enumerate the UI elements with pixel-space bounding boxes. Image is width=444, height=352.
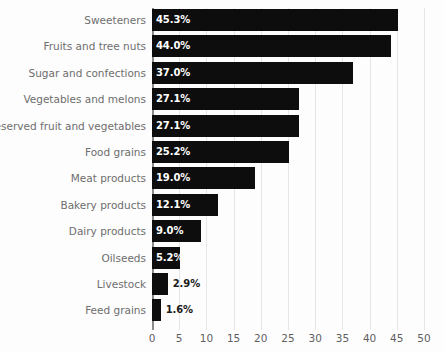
plot-area: 45.3%44.0%37.0%27.1%27.1%25.2%19.0%12.1%… bbox=[152, 8, 424, 330]
bar-row[interactable]: 44.0% bbox=[152, 35, 424, 57]
x-axis: 05101520253035404550 bbox=[152, 332, 424, 348]
category-label: Sweeteners bbox=[84, 9, 146, 31]
bar-value-label: 5.2% bbox=[156, 247, 183, 269]
bar-value-label: 25.2% bbox=[156, 141, 190, 163]
bar-chart: SweetenersFruits and tree nutsSugar and … bbox=[0, 0, 444, 352]
bar-value-label: 1.6% bbox=[166, 299, 193, 321]
bar-value-label: 45.3% bbox=[156, 9, 190, 31]
x-tick-label: 15 bbox=[227, 332, 240, 344]
x-tick-label: 5 bbox=[176, 332, 183, 344]
category-label: Dairy products bbox=[69, 220, 146, 242]
x-tick-label: 25 bbox=[281, 332, 294, 344]
x-tick-label: 45 bbox=[390, 332, 403, 344]
bar-row[interactable]: 37.0% bbox=[152, 62, 424, 84]
category-label: Meat products bbox=[71, 167, 146, 189]
category-label: Vegetables and melons bbox=[23, 88, 146, 110]
bar-row[interactable]: 2.9% bbox=[152, 273, 424, 295]
bar-row[interactable]: 12.1% bbox=[152, 194, 424, 216]
x-tick-label: 35 bbox=[336, 332, 349, 344]
bar-series: 45.3%44.0%37.0%27.1%27.1%25.2%19.0%12.1%… bbox=[152, 8, 424, 330]
category-label: Livestock bbox=[97, 273, 146, 295]
category-label: Feed grains bbox=[85, 299, 146, 321]
bar-value-label: 2.9% bbox=[173, 273, 200, 295]
bar[interactable] bbox=[152, 273, 168, 295]
bar-value-label: 27.1% bbox=[156, 115, 190, 137]
bar-row[interactable]: 9.0% bbox=[152, 220, 424, 242]
category-label: Oilseeds bbox=[101, 247, 146, 269]
bar-value-label: 12.1% bbox=[156, 194, 190, 216]
bar-value-label: 19.0% bbox=[156, 167, 190, 189]
category-label: Food grains bbox=[85, 141, 146, 163]
x-tick-label: 40 bbox=[363, 332, 376, 344]
bar-row[interactable]: 27.1% bbox=[152, 88, 424, 110]
bar-value-label: 9.0% bbox=[156, 220, 183, 242]
category-label: Preserved fruit and vegetables bbox=[0, 115, 146, 137]
bar-row[interactable]: 45.3% bbox=[152, 9, 424, 31]
bar-row[interactable]: 19.0% bbox=[152, 167, 424, 189]
bar-row[interactable]: 25.2% bbox=[152, 141, 424, 163]
category-label: Fruits and tree nuts bbox=[43, 35, 146, 57]
bar-row[interactable]: 27.1% bbox=[152, 115, 424, 137]
x-tick-label: 30 bbox=[309, 332, 322, 344]
category-label: Bakery products bbox=[60, 194, 146, 216]
category-label: Sugar and confections bbox=[28, 62, 146, 84]
category-axis: SweetenersFruits and tree nutsSugar and … bbox=[0, 8, 146, 330]
x-tick-label: 10 bbox=[200, 332, 213, 344]
x-tick-label: 20 bbox=[254, 332, 267, 344]
gridline-50 bbox=[424, 8, 425, 330]
bar-value-label: 37.0% bbox=[156, 62, 190, 84]
bar-row[interactable]: 5.2% bbox=[152, 247, 424, 269]
bar[interactable] bbox=[152, 299, 161, 321]
bar-value-label: 44.0% bbox=[156, 35, 190, 57]
x-tick-label: 0 bbox=[149, 332, 156, 344]
bar-row[interactable]: 1.6% bbox=[152, 299, 424, 321]
x-tick-label: 50 bbox=[417, 332, 430, 344]
bar-value-label: 27.1% bbox=[156, 88, 190, 110]
